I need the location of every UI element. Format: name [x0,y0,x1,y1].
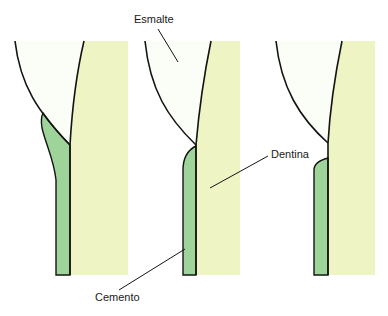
tooth-1 [15,41,128,275]
cemento-enamel-junction-diagram [0,0,388,316]
esmalte-label: Esmalte [134,14,174,25]
cementum-3 [314,158,328,275]
tooth-2 [145,41,240,275]
cemento-label: Cemento [95,292,140,303]
cemento-leader-line [119,249,185,290]
dentin-1 [70,41,128,275]
cementum-2 [183,146,196,275]
dentina-label: Dentina [271,149,309,160]
